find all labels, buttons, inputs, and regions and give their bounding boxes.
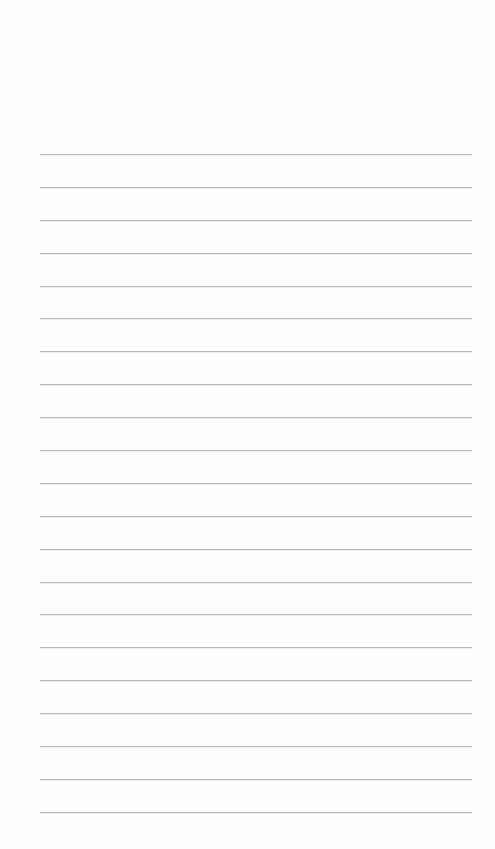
ruled-line [40,253,472,254]
ruled-line [40,286,472,287]
ruled-line [40,614,472,615]
lined-paper-page [0,0,495,849]
ruled-line [40,417,472,418]
ruled-line [40,220,472,221]
ruled-line [40,154,472,155]
ruled-line [40,187,472,188]
ruled-lines [40,154,472,845]
ruled-line [40,450,472,451]
ruled-line [40,582,472,583]
ruled-line [40,516,472,517]
ruled-line [40,779,472,780]
ruled-line [40,647,472,648]
ruled-line [40,746,472,747]
ruled-line [40,483,472,484]
ruled-line [40,713,472,714]
ruled-line [40,351,472,352]
ruled-line [40,549,472,550]
ruled-line [40,812,472,813]
ruled-line [40,318,472,319]
ruled-line [40,384,472,385]
ruled-line [40,680,472,681]
